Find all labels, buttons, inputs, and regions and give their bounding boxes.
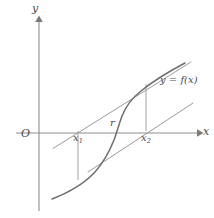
x2-label: x2 [141,133,151,144]
x-axis-label: x [203,126,209,137]
figure-root: y x O x1 x2 r y = f(x) [0,0,214,218]
x1-label: x1 [73,133,83,144]
y-axis-arrowhead [35,16,43,23]
x1-label-subscript: 1 [79,137,83,145]
function-label: y = f(x) [160,75,198,85]
root-label: r [110,118,115,128]
x2-label-subscript: 2 [147,137,151,145]
origin-label: O [21,128,30,139]
newtons-method-figure [0,0,214,218]
y-axis-label: y [32,3,38,14]
